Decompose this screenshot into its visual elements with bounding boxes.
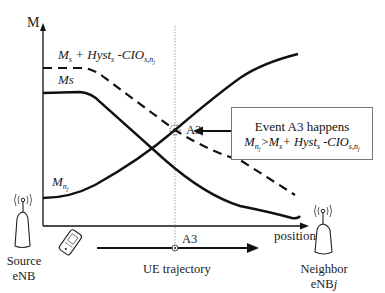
cond-sub-cio: s,n xyxy=(349,142,358,151)
cond-m: M xyxy=(244,135,254,149)
neighbor-curve-label: Mnj xyxy=(52,174,69,192)
a3-intersection-label: A3 xyxy=(186,123,201,138)
threshold-curve-label: Ms + Hysts -CIOs,nj xyxy=(58,47,155,65)
threshold-label-sub-cio: s,n xyxy=(144,55,153,64)
mobile-phone-icon xyxy=(58,229,82,256)
trajectory-a3-dot xyxy=(174,247,176,249)
neighbor-enb-line1: Neighbor xyxy=(296,262,352,277)
cond-cio: -CIO xyxy=(320,135,349,149)
neighbor-label-sub-j: j xyxy=(67,186,69,192)
cond-sub-cio-j: j xyxy=(358,146,360,152)
event-a3-box: Event A3 happens Mnj>Ms+ Hysts -CIOs,nj xyxy=(231,107,373,160)
neighbor-enb-line2: eNBj xyxy=(296,277,352,292)
neighbor-enb-label: Neighbor eNBj xyxy=(296,262,352,292)
trajectory-a3-label: A3 xyxy=(182,232,197,247)
y-axis-arrow-icon xyxy=(40,23,46,31)
x-axis-label: position xyxy=(274,228,316,244)
source-enb-line2: eNB xyxy=(5,269,43,284)
cond-hyst: + Hyst xyxy=(282,135,316,149)
serving-curve-label: Ms xyxy=(58,72,74,88)
threshold-label-m: M xyxy=(58,47,69,62)
ue-trajectory-label: UE trajectory xyxy=(143,262,211,277)
neighbor-enb-line2-text: eNB xyxy=(311,277,334,291)
source-enb-antenna-icon xyxy=(15,194,32,248)
neighbor-enb-antenna-icon xyxy=(315,205,333,254)
threshold-label-sub-cio-j: j xyxy=(153,59,155,65)
source-enb-label: Source eNB xyxy=(5,254,43,284)
a3-intersection-dot xyxy=(174,129,177,132)
threshold-label-cio: -CIO xyxy=(114,47,144,62)
cond-gt-m: >M xyxy=(260,135,279,149)
event-box-condition: Mnj>Ms+ Hysts -CIOs,nj xyxy=(232,134,372,157)
threshold-label-hyst: + Hyst xyxy=(72,47,111,62)
ue-trajectory-arrow-icon xyxy=(247,243,259,253)
y-axis-label: M xyxy=(27,15,39,31)
neighbor-enb-line2-j: j xyxy=(334,277,337,291)
neighbor-label-m: M xyxy=(52,174,63,189)
event-box-title: Event A3 happens xyxy=(232,120,372,134)
source-enb-line1: Source xyxy=(5,254,43,269)
